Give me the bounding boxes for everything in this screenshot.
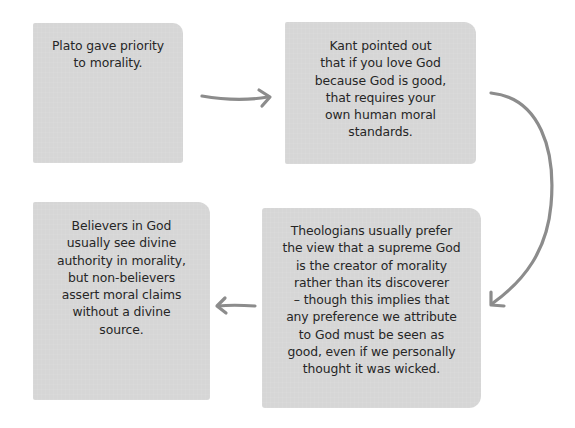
card-text-line: Believers in God: [39, 217, 204, 234]
card-text-line: to morality.: [39, 54, 177, 71]
card-believers: Believers in God usually see divine auth…: [33, 202, 210, 400]
card-text-line: good, even if we personally: [268, 343, 475, 360]
card-text-line: any preference we attribute: [268, 308, 475, 325]
arrow-curved-down-icon: [491, 93, 552, 306]
card-text-line: thought it was wicked.: [268, 360, 475, 377]
card-text-line: rather than its discoverer: [268, 274, 475, 291]
card-text-line: own human moral: [293, 106, 468, 123]
card-text-line: but non-believers: [39, 269, 204, 286]
card-text-line: Theologians usually prefer: [268, 222, 475, 239]
card-text-line: source.: [39, 321, 204, 338]
arrow-right-icon: [202, 90, 270, 106]
card-text-line: to God must be seen as: [268, 326, 475, 343]
card-text-line: the view that a supreme God: [268, 239, 475, 256]
card-text-line: assert moral claims: [39, 286, 204, 303]
card-text-line: without a divine: [39, 303, 204, 320]
card-text-line: that requires your: [293, 89, 468, 106]
card-text-line: – though this implies that: [268, 291, 475, 308]
card-plato: Plato gave priority to morality.: [33, 23, 183, 163]
card-text-line: authority in morality,: [39, 252, 204, 269]
card-text-line: usually see divine: [39, 234, 204, 251]
card-text-line: standards.: [293, 123, 468, 140]
card-text-line: is the creator of morality: [268, 257, 475, 274]
card-kant: Kant pointed out that if you love God be…: [285, 22, 476, 164]
card-theologians: Theologians usually prefer the view that…: [262, 208, 481, 408]
arrow-left-icon: [217, 298, 255, 313]
card-text-line: because God is good,: [293, 72, 468, 89]
card-text-line: that if you love God: [293, 54, 468, 71]
card-text-line: Plato gave priority: [39, 37, 177, 54]
card-text-line: Kant pointed out: [293, 37, 468, 54]
